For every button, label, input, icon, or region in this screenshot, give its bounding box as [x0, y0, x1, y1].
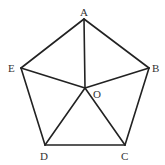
diagram-canvas: ABCDEO: [0, 0, 165, 165]
segment-EA: [21, 19, 84, 68]
point-label-C: C: [121, 150, 128, 162]
point-label-D: D: [40, 150, 48, 162]
segment-BC: [125, 68, 149, 145]
point-label-B: B: [152, 62, 159, 74]
segment-DE: [21, 68, 45, 145]
segment-AB: [84, 19, 149, 68]
segment-OB: [85, 68, 149, 88]
segment-OD: [45, 88, 85, 145]
point-label-O: O: [93, 88, 101, 100]
segment-OE: [21, 68, 85, 88]
point-label-E: E: [8, 62, 15, 74]
point-label-A: A: [80, 6, 88, 18]
segment-OA: [84, 19, 85, 88]
pentagon-diagram: ABCDEO: [0, 0, 165, 165]
segment-OC: [85, 88, 125, 145]
